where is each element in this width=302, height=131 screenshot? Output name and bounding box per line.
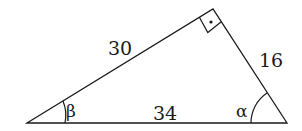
side-label-34: 34: [153, 102, 177, 124]
angle-label-beta: β: [66, 101, 76, 121]
right-angle-dot: [209, 20, 212, 23]
angle-label-alpha: α: [236, 101, 248, 121]
triangle-diagram: 30 16 34 β α: [0, 0, 302, 131]
side-label-16: 16: [259, 49, 283, 71]
side-label-30: 30: [108, 37, 132, 59]
right-angle-marker: [200, 18, 222, 33]
angle-arc-alpha: [251, 93, 267, 123]
